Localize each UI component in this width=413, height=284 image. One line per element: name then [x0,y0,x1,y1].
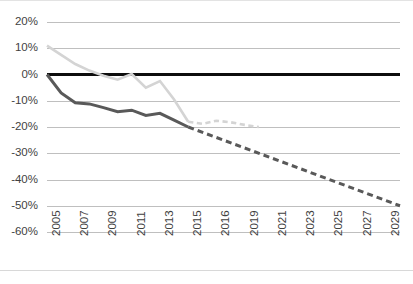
x-tick-label: 2029 [390,210,402,236]
x-tick-label: 2016 [220,210,232,236]
x-tick-label: 2009 [107,210,119,236]
x-tick-label: 2021 [277,210,289,236]
x-tick-label: 2019 [249,210,261,236]
x-tick-label: 2007 [79,210,91,236]
x-tick-label: 2011 [136,211,148,236]
x-axis: 2005200720092011201320152016201920212023… [0,236,413,284]
x-tick-label: 2023 [305,210,317,236]
x-tick-label: 2027 [362,210,374,236]
line-chart: 20%10%0%-10%-20%-30%-40%-50%-60% 2005200… [0,0,413,284]
x-tick-label: 2025 [333,210,345,236]
x-tick-label: 2005 [51,210,63,236]
x-tick-label: 2015 [192,210,204,236]
series-line-dark-gray-series-historical [47,75,188,128]
series-line-light-gray-series-projected [188,121,259,127]
series-line-dark-gray-series-projected [188,127,400,206]
chart-bottom-border [0,270,413,271]
x-tick-label: 2013 [164,210,176,236]
